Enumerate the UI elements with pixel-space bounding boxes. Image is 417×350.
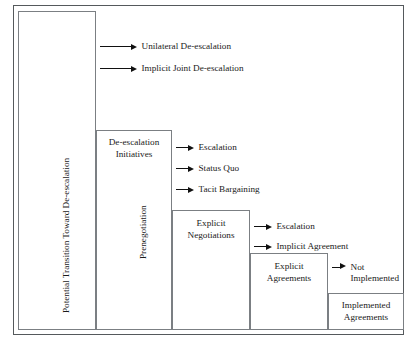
arrow-implicit-agreement: Implicit Agreement xyxy=(254,241,348,252)
arrow-tacit-bargaining: Tacit Bargaining xyxy=(176,184,260,195)
arrow-head-icon xyxy=(131,66,137,72)
arrow-not-implemented: Not Implemented xyxy=(332,262,399,284)
arrow-shaft-icon xyxy=(176,168,188,169)
arrow-head-icon xyxy=(340,263,346,269)
arrow-unilateral-de-escalation: Unilateral De-escalation xyxy=(100,41,231,52)
arrow-head-icon xyxy=(266,224,272,230)
vertical-label-potential-transition: Potential Transition Toward De-escalatio… xyxy=(61,158,71,313)
arrow-label: Status Quo xyxy=(199,163,240,174)
box-de-escalation-initiatives xyxy=(96,130,172,330)
arrow-escalation-from-negotiations: Escalation xyxy=(254,221,315,232)
arrow-head-icon xyxy=(266,244,272,250)
box-label-explicit-agreements: Explicit Agreements xyxy=(250,261,328,284)
vertical-label-prenegotiation: Prenegotiation xyxy=(138,205,148,259)
arrow-label: Escalation xyxy=(199,142,237,153)
arrow-label: Tacit Bargaining xyxy=(199,184,260,195)
box-potential-transition xyxy=(18,11,96,330)
arrow-head-icon xyxy=(188,187,194,193)
arrow-label: Escalation xyxy=(277,221,315,232)
arrow-label: Not Implemented xyxy=(351,262,399,284)
arrow-status-quo: Status Quo xyxy=(176,163,239,174)
arrow-shaft-icon xyxy=(100,68,131,69)
arrow-head-icon xyxy=(188,166,194,172)
arrow-label: Unilateral De-escalation xyxy=(142,41,232,52)
arrow-head-icon xyxy=(131,44,137,50)
arrow-label: Implicit Joint De-escalation xyxy=(142,63,244,74)
box-label-explicit-negotiations: Explicit Negotiations xyxy=(172,218,250,241)
arrow-shaft-icon xyxy=(254,226,266,227)
arrow-head-icon xyxy=(188,145,194,151)
arrow-shaft-icon xyxy=(100,46,131,47)
box-label-de-escalation-initiatives: De-escalation Initiatives xyxy=(96,137,172,160)
arrow-shaft-icon xyxy=(176,189,188,190)
arrow-label: Implicit Agreement xyxy=(277,241,349,252)
arrow-shaft-icon xyxy=(254,246,266,247)
arrow-escalation-from-initiatives: Escalation xyxy=(176,142,237,153)
box-label-implemented-agreements: Implemented Agreements xyxy=(328,300,404,323)
diagram-canvas: Potential Transition Toward De-escalatio… xyxy=(0,0,417,350)
arrow-implicit-joint-de-escalation: Implicit Joint De-escalation xyxy=(100,63,244,74)
diagram-figure: Potential Transition Toward De-escalatio… xyxy=(0,0,417,350)
arrow-shaft-icon xyxy=(176,147,188,148)
